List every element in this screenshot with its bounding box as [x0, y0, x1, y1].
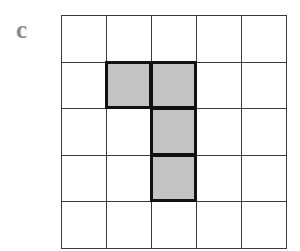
grid-cell	[241, 15, 287, 63]
grid-cell	[106, 108, 152, 156]
grid-cell	[196, 108, 242, 156]
grid-cell	[241, 201, 287, 249]
grid-diagram	[61, 15, 286, 248]
grid-cell	[61, 62, 107, 109]
panel-label: c	[16, 17, 27, 42]
grid-cell	[106, 15, 152, 63]
grid-cell-shaded	[105, 61, 152, 109]
grid-cell	[151, 15, 197, 63]
grid-cell-shaded	[150, 154, 197, 202]
grid-cell	[241, 62, 287, 109]
grid-cell	[61, 155, 107, 202]
grid-cell-shaded	[150, 61, 197, 109]
grid-cell	[151, 201, 197, 249]
grid-cell	[196, 62, 242, 109]
grid-cell	[196, 15, 242, 63]
grid-cell	[241, 155, 287, 202]
grid-cell	[61, 15, 107, 63]
grid-cell	[196, 155, 242, 202]
grid-cell-shaded	[150, 107, 197, 156]
grid-cell	[61, 108, 107, 156]
grid-cell	[106, 201, 152, 249]
grid-cell	[106, 155, 152, 202]
grid-cell	[241, 108, 287, 156]
grid-cell	[196, 201, 242, 249]
grid-cell	[61, 201, 107, 249]
